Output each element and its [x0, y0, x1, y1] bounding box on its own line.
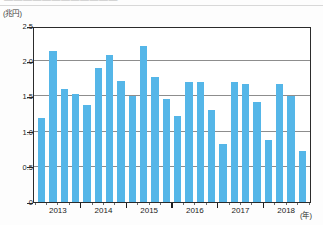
bar-slot [240, 28, 251, 202]
x-axis-year-label: 2016 [186, 206, 204, 215]
x-axis-minor-tick [69, 203, 70, 205]
y-axis: 00.51.01.52.02.5 [0, 0, 33, 225]
x-axis-minor-tick [274, 203, 275, 205]
x-axis-minor-tick [160, 203, 161, 205]
bar [49, 51, 56, 202]
bar-slot [59, 28, 70, 202]
headline-strip: ———————————— [0, 0, 323, 7]
bar-slot [115, 28, 126, 202]
bar [38, 118, 45, 202]
x-axis-minor-tick [194, 203, 195, 205]
x-axis-year-label: 2015 [140, 206, 158, 215]
bar-slot [229, 28, 240, 202]
x-axis-minor-tick [229, 203, 230, 205]
bar-slot [47, 28, 58, 202]
bar-slot [285, 28, 296, 202]
bar-slot [93, 28, 104, 202]
y-axis-tick-label: 2.5 [8, 23, 33, 31]
bar-slot [36, 28, 47, 202]
bar [299, 151, 306, 202]
bar [276, 84, 283, 202]
bar-slot [81, 28, 92, 202]
bar-slot [138, 28, 149, 202]
bar [197, 82, 204, 202]
x-axis-minor-tick [297, 203, 298, 205]
x-axis-minor-tick [183, 203, 184, 205]
plot-area [33, 27, 311, 203]
bar [95, 68, 102, 202]
bar-slot [183, 28, 194, 202]
bar [140, 46, 147, 202]
bar-slot [297, 28, 308, 202]
bar [151, 77, 158, 202]
y-axis-tick-label: 1.0 [8, 129, 33, 137]
bar-slot [206, 28, 217, 202]
bar-slot [251, 28, 262, 202]
bar [242, 84, 249, 202]
bar [265, 140, 272, 202]
x-axis-minor-tick [46, 203, 47, 205]
bar [253, 102, 260, 202]
bar [61, 89, 68, 202]
x-axis-year-label: 2014 [95, 206, 113, 215]
x-axis-labels: 201320142015201620172018 [33, 206, 311, 220]
x-axis-minor-tick [286, 203, 287, 205]
x-axis-minor-tick [309, 203, 310, 205]
x-axis-minor-tick [57, 203, 58, 205]
bar [163, 99, 170, 202]
bar-series [34, 28, 310, 202]
chart-page: ———————————— (兆円) 00.51.01.52.02.5 20132… [0, 0, 323, 225]
bar [72, 94, 79, 202]
bar [185, 82, 192, 202]
bar [106, 55, 113, 202]
x-axis-minor-tick [240, 203, 241, 205]
x-axis-unit-label: (年) [300, 209, 312, 220]
bar-slot [263, 28, 274, 202]
bar [219, 144, 226, 202]
bar-slot [217, 28, 228, 202]
x-axis-minor-tick [206, 203, 207, 205]
x-axis-year-label: 2018 [277, 206, 295, 215]
bar-slot [161, 28, 172, 202]
bar-slot [172, 28, 183, 202]
bar [174, 116, 181, 202]
x-axis-year-label: 2013 [49, 206, 67, 215]
x-axis-minor-tick [149, 203, 150, 205]
bar [287, 96, 294, 202]
bar-slot [149, 28, 160, 202]
y-axis-tick-label: 0 [8, 199, 33, 207]
bar-slot [274, 28, 285, 202]
x-axis-minor-tick [114, 203, 115, 205]
y-axis-tick-label: 1.5 [8, 93, 33, 101]
x-axis-minor-tick [92, 203, 93, 205]
bar [231, 82, 238, 202]
bar-slot [195, 28, 206, 202]
y-axis-tick-label: 2.0 [8, 58, 33, 66]
bar-slot [127, 28, 138, 202]
x-axis-minor-tick [137, 203, 138, 205]
bar-slot [70, 28, 81, 202]
bar [83, 105, 90, 202]
x-axis-minor-tick [35, 203, 36, 205]
x-axis-minor-tick [251, 203, 252, 205]
headline-rule [0, 5, 323, 6]
y-axis-tick-label: 0.5 [8, 164, 33, 172]
x-axis-minor-tick [103, 203, 104, 205]
bar [117, 81, 124, 202]
bar [208, 110, 215, 202]
bar [129, 96, 136, 202]
x-axis-year-label: 2017 [232, 206, 250, 215]
bar-slot [104, 28, 115, 202]
